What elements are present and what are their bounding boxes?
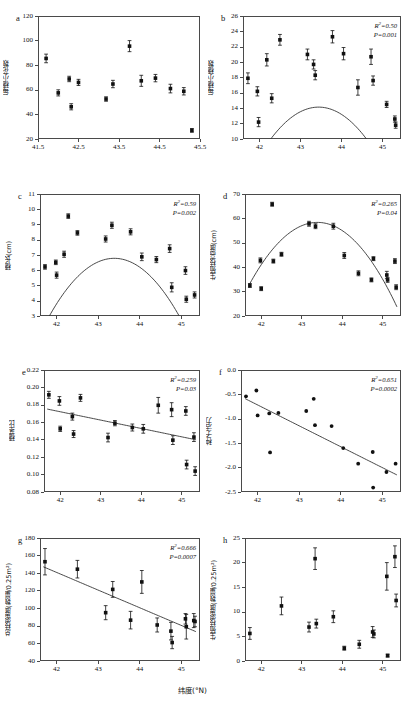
- panel-h-xtick-label: 43: [286, 665, 318, 673]
- panel-h-ytick-mark: [242, 538, 245, 539]
- panel-e-ytick-mark: [41, 387, 44, 388]
- panel-h-xtick-mark: [301, 661, 302, 664]
- panel-b-xtick-mark: [300, 139, 301, 142]
- panel-h-ytick-mark: [242, 661, 245, 662]
- panel-e-xtick-mark: [181, 492, 182, 495]
- panel-a-ytick-mark: [35, 16, 38, 17]
- panel-b-xtick-label: 43: [284, 143, 316, 151]
- panel-f-ytick-mark: [238, 394, 241, 395]
- panel-e-xtick-label: 42: [44, 496, 76, 504]
- panel-d-ytick-mark: [242, 218, 245, 219]
- panel-h-plot-area: [245, 538, 401, 661]
- panel-b-ytick-mark: [240, 16, 243, 17]
- panel-f-ylabel: 种子活力: [205, 370, 215, 492]
- panel-f-xtick-label: 44: [325, 496, 357, 504]
- panel-e-xtick-label: 43: [85, 496, 117, 504]
- panel-b-ytick-mark: [240, 108, 243, 109]
- panel-a-xtick-mark: [38, 139, 39, 142]
- panel-c-xtick-mark: [139, 316, 140, 319]
- panel-e-stats: R2=0.259P=0.03: [128, 375, 196, 393]
- figure-container: a2040608010012041.542.543.544.545.5每穗小花数…: [0, 0, 415, 706]
- panel-d-stats: R2=0.265P=0.04: [329, 199, 397, 217]
- panel-e-ytick-mark: [41, 439, 44, 440]
- figure-xlabel: 纬度(°N): [178, 684, 207, 695]
- panel-a-xtick-label: 45.5: [184, 143, 216, 151]
- panel-f-ytick-mark: [238, 370, 241, 371]
- panel-c-xtick-label: 44: [124, 320, 156, 328]
- panel-a-plot-area: [38, 16, 200, 139]
- panel-a-xtick-mark: [78, 139, 79, 142]
- panel-f-xtick-mark: [382, 492, 383, 495]
- panel-b-ytick-mark: [240, 139, 243, 140]
- panel-c-xtick-label: 43: [82, 320, 114, 328]
- panel-a-xtick-label: 43.5: [103, 143, 135, 151]
- panel-e-xtick-mark: [100, 492, 101, 495]
- panel-a-xtick-label: 42.5: [63, 143, 95, 151]
- panel-h-xtick-label: 45: [367, 665, 399, 673]
- panel-c-xtick-label: 45: [165, 320, 197, 328]
- panel-e-ytick-mark: [41, 474, 44, 475]
- panel-g-ytick-mark: [37, 608, 40, 609]
- panel-a-xtick-label: 41.5: [22, 143, 54, 151]
- panel-e-ytick-mark: [41, 457, 44, 458]
- panel-c-ytick-mark: [37, 240, 40, 241]
- panel-a-ytick-mark: [35, 65, 38, 66]
- panel-d-xtick-mark: [301, 316, 302, 319]
- panel-h-ytick-mark: [242, 612, 245, 613]
- panel-c-xtick-label: 42: [41, 320, 73, 328]
- panel-g-xtick-label: 45: [165, 665, 197, 673]
- panel-g-ytick-mark: [37, 590, 40, 591]
- panel-h-xtick-mark: [382, 661, 383, 664]
- panel-g-ytick-mark: [37, 538, 40, 539]
- panel-d-xtick-label: 44: [326, 320, 358, 328]
- panel-g-ytick-mark: [37, 661, 40, 662]
- panel-e-ytick-mark: [41, 370, 44, 371]
- panel-d-xtick-mark: [382, 316, 383, 319]
- panel-g-ytick-mark: [37, 626, 40, 627]
- panel-d-ytick-mark: [242, 243, 245, 244]
- panel-h-ylabel: 生殖枝密度(数量/0.25m²): [209, 538, 219, 661]
- panel-h-xtick-label: 42: [245, 665, 277, 673]
- panel-e-ytick-mark: [41, 405, 44, 406]
- panel-g-xtick-mark: [181, 661, 182, 664]
- panel-d-xtick-mark: [342, 316, 343, 319]
- panel-b-ytick-mark: [240, 47, 243, 48]
- panel-c-ytick-mark: [37, 316, 40, 317]
- panel-d-xtick-mark: [261, 316, 262, 319]
- panel-a-xtick-mark: [119, 139, 120, 142]
- panel-g-xtick-label: 44: [124, 665, 156, 673]
- panel-d-ylabel: 生殖枝高度(cm): [209, 194, 219, 316]
- panel-e-ytick-mark: [41, 492, 44, 493]
- panel-f-xtick-label: 42: [242, 496, 274, 504]
- panel-c-xtick-mark: [98, 316, 99, 319]
- panel-h-xtick-mark: [342, 661, 343, 664]
- panel-e-xtick-label: 44: [125, 496, 157, 504]
- panel-b-xtick-label: 44: [325, 143, 357, 151]
- panel-b-xtick-mark: [341, 139, 342, 142]
- panel-e-ytick-mark: [41, 422, 44, 423]
- panel-g-ylabel: 总枝密度(数量/0.25m²): [4, 538, 14, 661]
- panel-f-xtick-mark: [299, 492, 300, 495]
- panel-c-ytick-mark: [37, 270, 40, 271]
- panel-d-ytick-mark: [242, 316, 245, 317]
- panel-f-ytick-mark: [238, 443, 241, 444]
- panel-b-ytick-mark: [240, 123, 243, 124]
- panel-b-ytick-mark: [240, 62, 243, 63]
- panel-f-ytick-mark: [238, 467, 241, 468]
- panel-b-xtick-mark: [259, 139, 260, 142]
- panel-b-xtick-mark: [382, 139, 383, 142]
- panel-c-ytick-mark: [37, 209, 40, 210]
- panel-d-ytick-mark: [242, 291, 245, 292]
- panel-b-ytick-mark: [240, 31, 243, 32]
- panel-d-xtick-label: 43: [286, 320, 318, 328]
- panel-a-ytick-mark: [35, 90, 38, 91]
- panel-e-ylabel: 穗茎比: [8, 370, 18, 492]
- panel-b-ylabel: 每穗小穗数: [207, 16, 217, 139]
- panel-b-stats: R2=0.50P=0.001: [329, 21, 397, 39]
- panel-g-xtick-mark: [98, 661, 99, 664]
- panel-a-xtick-label: 44.5: [144, 143, 176, 151]
- panel-f-xtick-mark: [340, 492, 341, 495]
- panel-a-ytick-mark: [35, 114, 38, 115]
- panel-d-ytick-mark: [242, 267, 245, 268]
- panel-b-xtick-label: 42: [243, 143, 275, 151]
